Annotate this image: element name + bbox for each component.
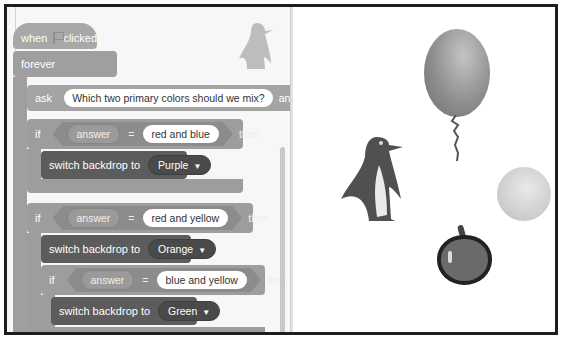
ball-sprite[interactable] [497, 167, 551, 221]
backdrop-option: Purple [158, 159, 188, 171]
equals-operator-block[interactable]: answer = blue and yellow [67, 268, 261, 292]
forever-block[interactable]: forever [13, 51, 117, 77]
ask-label: ask [35, 92, 52, 104]
switch-backdrop-label: switch backdrop to [49, 159, 140, 171]
panel-divider [290, 7, 293, 332]
ask-and-wait-block[interactable]: ask Which two primary colors should we m… [27, 85, 290, 111]
if-keyword: if [49, 274, 55, 286]
comparison-value-input[interactable]: red and yellow [143, 209, 229, 227]
ask-suffix: and wait [279, 92, 290, 104]
balloon-string [446, 115, 466, 161]
green-flag-icon [53, 32, 57, 44]
equals-sign: = [128, 212, 134, 224]
if-block-2[interactable]: if answer = red and yellow then [27, 203, 253, 233]
then-keyword: then [239, 128, 259, 140]
forever-label: forever [21, 58, 55, 70]
equals-sign: = [128, 128, 134, 140]
if-keyword: if [35, 212, 41, 224]
app-frame: when clicked forever ask Which two prima… [4, 4, 558, 335]
if-block-1-arm [27, 149, 41, 179]
if-block-1-bottom [27, 179, 243, 193]
switch-backdrop-label: switch backdrop to [49, 243, 140, 255]
backdrop-dropdown[interactable]: Orange▼ [148, 239, 216, 259]
switch-backdrop-label: switch backdrop to [59, 305, 150, 317]
if-block-3-bottom [41, 327, 265, 332]
comparison-value-input[interactable]: blue and yellow [157, 271, 247, 289]
when-flag-clicked-block[interactable]: when clicked [13, 23, 97, 49]
switch-backdrop-block-3[interactable]: switch backdrop to Green▼ [51, 297, 197, 325]
backdrop-dropdown[interactable]: Purple▼ [148, 155, 211, 175]
balloon-sprite[interactable] [424, 29, 490, 117]
penguin-sprite[interactable] [339, 135, 407, 225]
if-block-1[interactable]: if answer = red and blue then [27, 119, 243, 149]
if-keyword: if [35, 128, 41, 140]
switch-backdrop-block-1[interactable]: switch backdrop to Purple▼ [41, 151, 187, 179]
code-area[interactable]: when clicked forever ask Which two prima… [7, 7, 290, 332]
answer-reporter[interactable]: answer [67, 208, 121, 228]
apple-shine [448, 251, 452, 263]
answer-reporter[interactable]: answer [81, 270, 135, 290]
backdrop-dropdown[interactable]: Green▼ [158, 301, 220, 321]
ask-question-input[interactable]: Which two primary colors should we mix? [64, 89, 273, 107]
hat-prefix: when [21, 32, 47, 44]
forever-block-arm [13, 77, 27, 332]
stage[interactable] [294, 7, 558, 332]
switch-backdrop-block-2[interactable]: switch backdrop to Orange▼ [41, 235, 191, 263]
code-area-scrollbar[interactable] [280, 147, 285, 332]
backdrop-option: Orange [158, 243, 193, 255]
if-block-2-arm [27, 233, 41, 332]
hat-suffix: clicked [63, 32, 97, 44]
equals-operator-block[interactable]: answer = red and yellow [53, 206, 243, 230]
equals-operator-block[interactable]: answer = red and blue [53, 122, 233, 146]
apple-sprite[interactable] [437, 235, 492, 285]
answer-reporter[interactable]: answer [67, 124, 121, 144]
then-keyword: then [248, 212, 268, 224]
chevron-down-icon: ▼ [198, 246, 206, 255]
equals-sign: = [142, 274, 148, 286]
backdrop-option: Green [168, 305, 197, 317]
chevron-down-icon: ▼ [202, 308, 210, 317]
penguin-icon [235, 19, 275, 71]
chevron-down-icon: ▼ [193, 162, 201, 171]
if-block-3[interactable]: if answer = blue and yellow then [41, 265, 265, 295]
comparison-value-input[interactable]: red and blue [143, 125, 219, 143]
